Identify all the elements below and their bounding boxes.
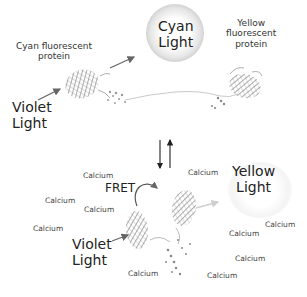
- calcium-label: Calcium: [84, 206, 114, 215]
- yfp-label: Yellow fluorescent protein: [226, 18, 276, 49]
- fret-label: FRET: [105, 182, 135, 196]
- calcium-label: Calcium: [188, 169, 218, 178]
- calcium-label: Calcium: [207, 272, 237, 281]
- violet-light-arrow-bottom: [112, 235, 128, 241]
- violet-light-label-top-line2: Light: [12, 115, 52, 131]
- violet-light-label-bottom-line2: Light: [72, 252, 112, 268]
- calcium-label: Calcium: [83, 172, 113, 181]
- calcium-label: Calcium: [45, 197, 75, 206]
- yellow-emission-arrow: [196, 202, 218, 208]
- cfp-label-line1: Cyan fluorescent: [16, 41, 92, 51]
- cyan-emission-arrow: [110, 57, 134, 68]
- yellow-light-label: Yellow Light: [232, 163, 275, 195]
- cyan-light-label-line2: Light: [158, 34, 194, 50]
- violet-light-label-top: Violet Light: [12, 99, 52, 131]
- calcium-label: Calcium: [33, 225, 63, 234]
- violet-light-label-bottom-line1: Violet: [72, 236, 112, 252]
- fret-arrow: [135, 184, 157, 206]
- yellow-light-label-line1: Yellow: [232, 163, 275, 179]
- calcium-label: Calcium: [235, 255, 265, 264]
- fret-calcium-sensor-diagram: Cyan fluorescent protein Violet Light Cy…: [0, 0, 307, 297]
- violet-light-label-top-line1: Violet: [12, 99, 52, 115]
- violet-light-label-bottom: Violet Light: [72, 236, 112, 268]
- calcium-label: Calcium: [128, 270, 158, 279]
- yellow-fluorescent-protein-structure: [211, 68, 264, 110]
- cfp-label: Cyan fluorescent protein: [16, 41, 92, 62]
- calcium-label: Calcium: [229, 230, 259, 239]
- cfp-label-line2: protein: [16, 51, 92, 61]
- cyan-light-label-line1: Cyan: [158, 18, 194, 34]
- cyan-light-label: Cyan Light: [158, 18, 194, 50]
- calcium-label: Calcium: [265, 221, 295, 230]
- yfp-label-line1: Yellow: [226, 18, 276, 28]
- yfp-label-line3: protein: [226, 39, 276, 49]
- yfp-label-line2: fluorescent: [226, 28, 276, 38]
- cyan-fluorescent-protein-structure: [61, 65, 126, 104]
- yellow-light-label-line2: Light: [232, 179, 275, 195]
